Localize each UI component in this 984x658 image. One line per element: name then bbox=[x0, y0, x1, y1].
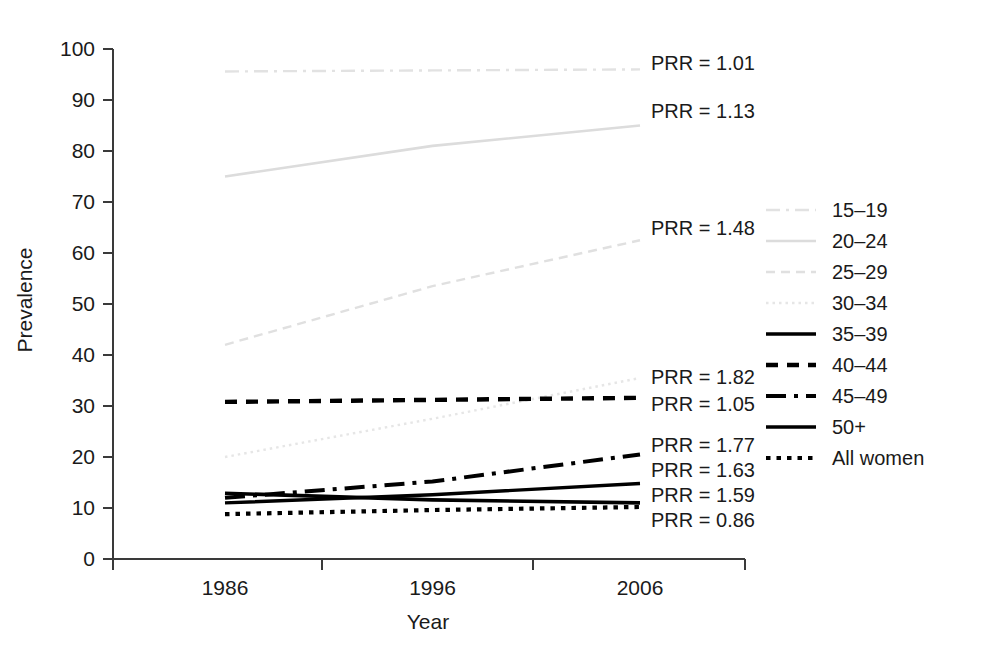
y-tick-label: 80 bbox=[72, 139, 95, 162]
prr-annotation: PRR = 1.77 bbox=[651, 434, 755, 456]
y-tick-label: 0 bbox=[83, 547, 95, 570]
y-tick-label: 90 bbox=[72, 88, 95, 111]
x-tick-label: 1986 bbox=[202, 576, 249, 599]
legend-label[interactable]: 35–39 bbox=[832, 323, 888, 345]
prr-annotation: PRR = 1.05 bbox=[651, 393, 755, 415]
y-tick-label: 40 bbox=[72, 343, 95, 366]
prevalence-line-chart: 1009080706050403020100 198619962006 PRR … bbox=[0, 0, 984, 658]
y-axis-title: Prevalence bbox=[13, 247, 36, 352]
y-tick-label: 20 bbox=[72, 445, 95, 468]
y-tick-label: 60 bbox=[72, 241, 95, 264]
legend-label[interactable]: 50+ bbox=[832, 416, 866, 438]
prr-annotation: PRR = 0.86 bbox=[651, 509, 755, 531]
x-axis-title: Year bbox=[407, 610, 449, 633]
x-tick-label: 2006 bbox=[617, 576, 664, 599]
y-tick-label: 10 bbox=[72, 496, 95, 519]
legend-label[interactable]: 45–49 bbox=[832, 385, 888, 407]
y-tick-label: 30 bbox=[72, 394, 95, 417]
legend-label[interactable]: 25–29 bbox=[832, 261, 888, 283]
chart-figure: 1009080706050403020100 198619962006 PRR … bbox=[0, 0, 984, 658]
legend-label[interactable]: 15–19 bbox=[832, 199, 888, 221]
prr-annotation: PRR = 1.59 bbox=[651, 484, 755, 506]
prr-annotation: PRR = 1.82 bbox=[651, 366, 755, 388]
prr-annotation: PRR = 1.48 bbox=[651, 217, 755, 239]
y-tick-label: 70 bbox=[72, 190, 95, 213]
legend-label[interactable]: 40–44 bbox=[832, 354, 888, 376]
legend-label[interactable]: 20–24 bbox=[832, 230, 888, 252]
legend-label[interactable]: 30–34 bbox=[832, 292, 888, 314]
y-tick-label: 50 bbox=[72, 292, 95, 315]
legend-label[interactable]: All women bbox=[832, 447, 924, 469]
prr-annotation: PRR = 1.01 bbox=[651, 52, 755, 74]
prr-annotation: PRR = 1.63 bbox=[651, 459, 755, 481]
x-tick-label: 1996 bbox=[409, 576, 456, 599]
y-tick-label: 100 bbox=[60, 37, 95, 60]
prr-annotation: PRR = 1.13 bbox=[651, 100, 755, 122]
